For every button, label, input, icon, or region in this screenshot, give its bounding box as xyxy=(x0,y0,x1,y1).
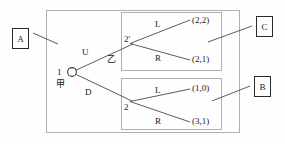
game-tree-figure: 1 甲 乙 U D 2' 2 L R L R (2,2) (2,1) (1,0)… xyxy=(0,0,285,144)
node-label-2: 2 xyxy=(124,103,129,112)
callout-tag-a: A xyxy=(12,28,29,49)
action-label-lower-right: R xyxy=(155,117,161,126)
node-label-2-prime: 2' xyxy=(124,35,130,44)
payoff-lower-left: (1,0) xyxy=(192,84,209,93)
action-label-upper-right: R xyxy=(155,54,161,63)
action-label-lower-left: L xyxy=(155,86,161,95)
action-label-up: U xyxy=(82,48,89,57)
callout-tag-b: B xyxy=(254,76,271,97)
action-label-upper-left: L xyxy=(155,20,161,29)
action-label-down: D xyxy=(85,88,92,97)
second-player-name-cjk: 乙 xyxy=(107,55,116,64)
root-node-circle xyxy=(68,68,77,77)
game-tree-canvas xyxy=(0,0,285,144)
payoff-lower-right: (3,1) xyxy=(192,117,209,126)
callout-leader-a xyxy=(33,33,58,44)
root-player-name-cjk: 甲 xyxy=(56,80,65,89)
callout-leader-b xyxy=(212,86,250,101)
callout-tag-c: C xyxy=(256,16,273,37)
payoff-upper-right: (2,1) xyxy=(192,55,209,64)
callout-leader-c xyxy=(208,26,252,42)
root-player-label: 1 xyxy=(57,68,62,77)
payoff-upper-left: (2,2) xyxy=(192,16,209,25)
